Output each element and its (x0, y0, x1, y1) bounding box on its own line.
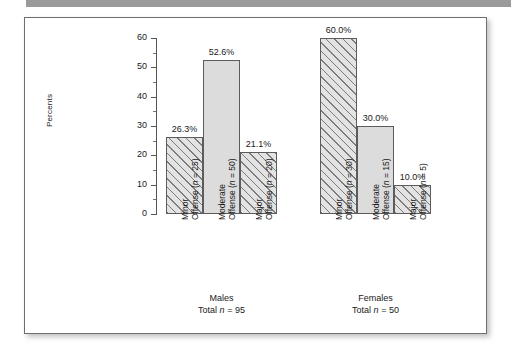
group-caption: MalesTotal n = 95 (152, 292, 292, 316)
group-caption-total: Total n = 95 (152, 304, 292, 316)
y-tick-major (151, 126, 156, 127)
y-tick-label: 0 (119, 208, 147, 218)
y-tick-label: 20 (119, 149, 147, 159)
x-category-label: ModerateOffense (n = 50) (217, 158, 237, 220)
y-tick-label: 60 (119, 32, 147, 42)
y-tick-major (151, 97, 156, 98)
y-tick-minor (153, 111, 156, 112)
y-tick-minor (153, 199, 156, 200)
y-tick-minor (153, 170, 156, 171)
group-caption-name: Males (152, 292, 292, 304)
x-category-label: MinorOffense (n = 30) (334, 158, 354, 220)
y-tick-major (151, 155, 156, 156)
y-tick-label: 10 (119, 179, 147, 189)
bar-value-label: 21.1% (232, 139, 286, 149)
x-category-label: ModerateOffense (n = 15) (371, 158, 391, 220)
group-caption: FemalesTotal n = 50 (306, 292, 446, 316)
y-tick-label: 40 (119, 91, 147, 101)
bar-chart-plot-area: Percents 0102030405060 26.3%52.6%21.1%60… (25, 18, 486, 333)
y-axis-title: Percents (45, 61, 54, 161)
x-category-label: MajorOffense (n = 20) (254, 158, 274, 220)
bar-value-label: 30.0% (349, 113, 403, 123)
y-tick-minor (153, 82, 156, 83)
y-tick-minor (153, 53, 156, 54)
page-header-band (26, 0, 511, 7)
bar-value-label: 52.6% (195, 47, 249, 57)
y-tick-major (151, 67, 156, 68)
bar-value-label: 60.0% (312, 25, 366, 35)
y-tick-major (151, 214, 156, 215)
x-category-label: MajorOffense (n = 5) (408, 163, 428, 220)
y-tick-label: 50 (119, 61, 147, 71)
group-caption-name: Females (306, 292, 446, 304)
group-caption-total: Total n = 50 (306, 304, 446, 316)
y-tick-minor (153, 141, 156, 142)
figure-panel: Percents 0102030405060 26.3%52.6%21.1%60… (24, 17, 487, 334)
y-tick-major (151, 38, 156, 39)
y-tick-label: 30 (119, 120, 147, 130)
y-tick-major (151, 185, 156, 186)
x-category-label: MinorOffense (n = 25) (180, 158, 200, 220)
